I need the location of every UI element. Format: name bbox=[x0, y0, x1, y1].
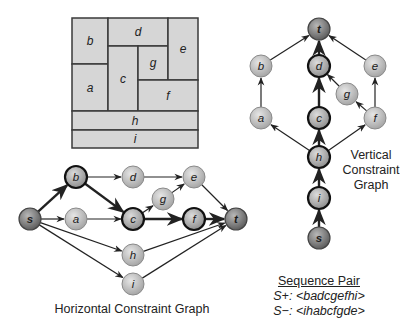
horizontal-graph-nodes: sbadcgefhit bbox=[19, 166, 247, 295]
floorplan-block-f: f bbox=[138, 80, 198, 111]
floorplan-block-d: d bbox=[108, 18, 168, 46]
vcg-edge-f-g bbox=[356, 102, 367, 111]
vcg-node-i: i bbox=[308, 187, 330, 209]
hcg-node-d: d bbox=[122, 166, 144, 188]
vcg-edge-h-f bbox=[328, 125, 365, 151]
node-label: b bbox=[73, 171, 80, 183]
node-label: b bbox=[258, 60, 265, 72]
vertical-graph-title-line: Vertical bbox=[338, 148, 404, 163]
node-label: g bbox=[344, 88, 351, 100]
node-label: i bbox=[318, 192, 321, 204]
hcg-edge-i-t bbox=[142, 225, 226, 278]
hcg-node-i: i bbox=[122, 273, 144, 295]
hcg-node-c: c bbox=[122, 208, 144, 230]
node-label: s bbox=[316, 232, 322, 244]
vertical-graph-title-line: Graph bbox=[338, 178, 404, 193]
block-label: g bbox=[150, 56, 157, 70]
node-label: a bbox=[73, 213, 79, 225]
hcg-edge-h-t bbox=[143, 223, 224, 251]
block-label: e bbox=[180, 42, 187, 56]
hcg-node-f: f bbox=[183, 208, 205, 230]
hcg-node-a: a bbox=[65, 208, 87, 230]
node-label: c bbox=[130, 213, 136, 225]
vcg-node-b: b bbox=[250, 55, 272, 77]
hcg-node-h: h bbox=[122, 244, 144, 266]
block-label: i bbox=[134, 132, 137, 146]
node-label: a bbox=[258, 112, 264, 124]
hcg-node-b: b bbox=[65, 166, 87, 188]
node-label: h bbox=[316, 151, 322, 163]
floorplan-block-i: i bbox=[72, 130, 198, 148]
s-plus-row: S+: <badcgefhi> bbox=[259, 289, 379, 304]
vcg-edge-h-a bbox=[271, 125, 310, 151]
hcg-node-t: t bbox=[225, 208, 247, 230]
vcg-node-c: c bbox=[308, 107, 330, 129]
hcg-edge-s-b bbox=[38, 185, 67, 211]
hcg-edge-s-i bbox=[39, 225, 123, 278]
floorplan-block-a: a bbox=[72, 64, 108, 111]
s-minus-value: <ihabcfgde> bbox=[296, 304, 365, 318]
floorplan-block-g: g bbox=[138, 46, 168, 80]
block-label: h bbox=[132, 114, 139, 128]
vcg-node-d: d bbox=[308, 55, 330, 77]
s-plus-label: S+: bbox=[273, 289, 292, 303]
block-label: b bbox=[87, 34, 94, 48]
sequence-pair-title: Sequence Pair bbox=[259, 274, 379, 289]
hcg-edge-g-e bbox=[172, 184, 184, 193]
vcg-node-a: a bbox=[250, 107, 272, 129]
block-label: a bbox=[87, 81, 94, 95]
node-label: e bbox=[372, 60, 378, 72]
floorplan: badcgefhi bbox=[72, 18, 198, 148]
hcg-node-g: g bbox=[152, 188, 174, 210]
node-label: e bbox=[191, 171, 197, 183]
hcg-edge-b-c bbox=[85, 184, 123, 212]
s-plus-value: <badcgefhi> bbox=[296, 289, 365, 303]
vcg-edge-e-t bbox=[329, 36, 366, 60]
vcg-node-t: t bbox=[308, 18, 330, 40]
hcg-node-s: s bbox=[19, 208, 41, 230]
block-label: c bbox=[120, 72, 126, 86]
block-label: d bbox=[135, 25, 142, 39]
hcg-edge-c-g bbox=[142, 206, 153, 213]
node-label: c bbox=[316, 112, 322, 124]
hcg-node-e: e bbox=[183, 166, 205, 188]
node-label: s bbox=[27, 213, 33, 225]
vcg-node-f: f bbox=[364, 107, 386, 129]
horizontal-graph-title: Horizontal Constraint Graph bbox=[42, 302, 222, 317]
floorplan-block-b: b bbox=[72, 18, 108, 64]
vcg-node-h: h bbox=[308, 146, 330, 168]
s-minus-row: S−: <ihabcfgde> bbox=[259, 304, 379, 319]
node-label: h bbox=[130, 249, 136, 261]
s-minus-label: S−: bbox=[273, 304, 292, 318]
node-label: d bbox=[316, 60, 323, 72]
floorplan-block-c: c bbox=[108, 46, 138, 111]
vcg-edge-b-t bbox=[270, 35, 309, 60]
floorplan-block-h: h bbox=[72, 111, 198, 130]
sequence-pair: Sequence Pair S+: <badcgefhi> S−: <ihabc… bbox=[259, 274, 379, 319]
node-label: d bbox=[130, 171, 137, 183]
hcg-edge-e-t bbox=[202, 185, 228, 211]
vcg-edge-g-d bbox=[327, 74, 339, 86]
vertical-graph-title: Vertical Constraint Graph bbox=[338, 148, 404, 193]
floorplan-block-e: e bbox=[168, 18, 198, 80]
node-label: i bbox=[132, 278, 135, 290]
vcg-node-g: g bbox=[336, 83, 358, 105]
vcg-node-s: s bbox=[308, 227, 330, 249]
node-label: g bbox=[160, 193, 167, 205]
vcg-node-e: e bbox=[364, 55, 386, 77]
vertical-graph-title-line: Constraint bbox=[338, 163, 404, 178]
